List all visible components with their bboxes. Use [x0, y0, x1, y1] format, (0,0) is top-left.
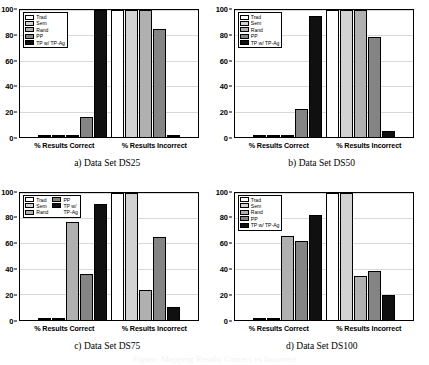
x-axis-tick-label: % Results Correct	[19, 138, 109, 152]
chart-legend: TradSemRandPPTP w/TP-Ag	[23, 195, 81, 218]
y-axis: 020406080100	[210, 192, 232, 321]
panel-subcaption: a) Data Set DS25	[74, 158, 140, 168]
x-axis-tick-label: % Results Incorrect	[324, 321, 414, 335]
y-axis-tick-mark	[14, 217, 17, 218]
chart-legend: TradSemRandPPTP w/ TP-Ag	[23, 12, 68, 48]
legend-item: TP w/ TP-Ag	[240, 40, 280, 46]
bar	[354, 10, 367, 137]
legend-swatch-icon	[25, 21, 34, 26]
x-axis-labels: % Results Correct% Results Incorrect	[19, 138, 199, 152]
bar	[326, 193, 339, 320]
bar	[267, 135, 280, 137]
bar	[382, 295, 395, 319]
y-axis-tick-label: 100	[216, 187, 228, 196]
chart-plot-area: 020406080100TradSemRandPPTP w/ TP-Ag	[234, 192, 414, 321]
y-axis-tick-mark	[14, 320, 17, 321]
y-axis-tick-mark	[229, 34, 232, 35]
legend-item-label: TP w/ TP-Ag	[36, 40, 65, 46]
y-axis-tick-label: 40	[5, 82, 13, 91]
legend-swatch-icon	[240, 203, 249, 208]
y-axis-tick-mark	[229, 268, 232, 269]
bar	[281, 135, 294, 137]
bar	[309, 215, 322, 319]
chart-plot-area: 020406080100TradSemRandPPTP w/ TP-Ag	[234, 9, 414, 138]
y-axis-tick-label: 80	[5, 213, 13, 222]
bar	[111, 10, 124, 137]
figure-grid: 020406080100TradSemRandPPTP w/ TP-Ag% Re…	[0, 0, 429, 365]
y-axis-tick-mark	[229, 191, 232, 192]
y-axis-tick-label: 80	[220, 213, 228, 222]
x-axis-labels: % Results Correct% Results Incorrect	[234, 321, 414, 335]
bar	[66, 222, 79, 320]
bar	[125, 193, 138, 320]
y-axis: 020406080100	[0, 9, 17, 138]
bar	[167, 135, 180, 137]
bar	[295, 109, 308, 137]
legend-item-label: Rand	[36, 209, 48, 215]
chart-plot-area: 020406080100TradSemRandPPTP w/TP-Ag	[19, 192, 199, 321]
bar	[52, 318, 65, 320]
bar	[94, 10, 107, 137]
bar	[354, 276, 367, 319]
bar-group	[109, 10, 198, 137]
legend-column: TradSemRandPPTP w/ TP-Ag	[240, 197, 280, 229]
bar	[80, 274, 93, 320]
y-axis-tick-label: 40	[220, 264, 228, 273]
legend-swatch-icon	[52, 197, 61, 202]
y-axis-tick-label: 0	[9, 316, 13, 325]
y-axis-tick-mark	[229, 294, 232, 295]
y-axis-tick-mark	[14, 138, 17, 139]
legend-item-label-line2: TP-Ag	[52, 209, 77, 215]
bar	[94, 204, 107, 320]
bar	[267, 318, 280, 320]
y-axis-tick-mark	[14, 34, 17, 35]
chart-panel: 020406080100TradSemRandPPTP w/ TP-Ag% Re…	[0, 0, 215, 183]
y-axis-tick-label: 40	[220, 82, 228, 91]
legend-item: Rand	[25, 209, 48, 215]
legend-swatch-icon	[240, 216, 249, 221]
bar	[253, 318, 266, 320]
chart-panel: 020406080100TradSemRandPPTP w/ TP-Ag% Re…	[215, 0, 429, 183]
chart-legend: TradSemRandPPTP w/ TP-Ag	[238, 12, 283, 48]
y-axis-tick-label: 100	[1, 5, 13, 14]
y-axis-tick-mark	[14, 268, 17, 269]
y-axis-tick-mark	[229, 60, 232, 61]
panel-subcaption: d) Data Set DS100	[286, 341, 358, 351]
legend-column: PPTP w/TP-Ag	[52, 197, 77, 216]
legend-item: TP w/ TP-Ag	[240, 222, 280, 228]
bar	[309, 16, 322, 137]
bar	[281, 236, 294, 320]
panel-subcaption: b) Data Set DS50	[288, 158, 355, 168]
bar	[38, 135, 51, 137]
y-axis-tick-mark	[229, 320, 232, 321]
x-axis-labels: % Results Correct% Results Incorrect	[19, 321, 199, 335]
legend-item-label: TP w/ TP-Ag	[251, 40, 280, 46]
x-axis-tick-label: % Results Correct	[234, 138, 324, 152]
y-axis-tick-label: 40	[5, 264, 13, 273]
legend-item-label: TP w/ TP-Ag	[251, 222, 280, 228]
legend-column: TradSemRand	[25, 197, 48, 216]
y-axis-tick-mark	[14, 86, 17, 87]
legend-swatch-icon	[240, 34, 249, 39]
y-axis-tick-label: 60	[5, 239, 13, 248]
y-axis-tick-mark	[229, 138, 232, 139]
y-axis-tick-mark	[14, 191, 17, 192]
legend-swatch-icon	[25, 203, 34, 208]
bar	[139, 10, 152, 137]
bar	[253, 135, 266, 137]
legend-swatch-icon	[240, 210, 249, 215]
y-axis-tick-label: 0	[9, 134, 13, 143]
legend-swatch-icon	[25, 210, 34, 215]
bar-group	[324, 193, 413, 320]
y-axis-tick-label: 80	[220, 30, 228, 39]
legend-swatch-icon	[25, 34, 34, 39]
bar	[295, 241, 308, 320]
x-axis-tick-label: % Results Correct	[234, 321, 324, 335]
y-axis-tick-mark	[14, 243, 17, 244]
y-axis-tick-label: 60	[220, 239, 228, 248]
legend-column: TradSemRandPPTP w/ TP-Ag	[25, 14, 65, 46]
y-axis-tick-label: 100	[1, 187, 13, 196]
y-axis-tick-mark	[229, 86, 232, 87]
chart-panel: 020406080100TradSemRandPPTP w/TP-Ag% Res…	[0, 183, 215, 365]
bar	[153, 29, 166, 137]
